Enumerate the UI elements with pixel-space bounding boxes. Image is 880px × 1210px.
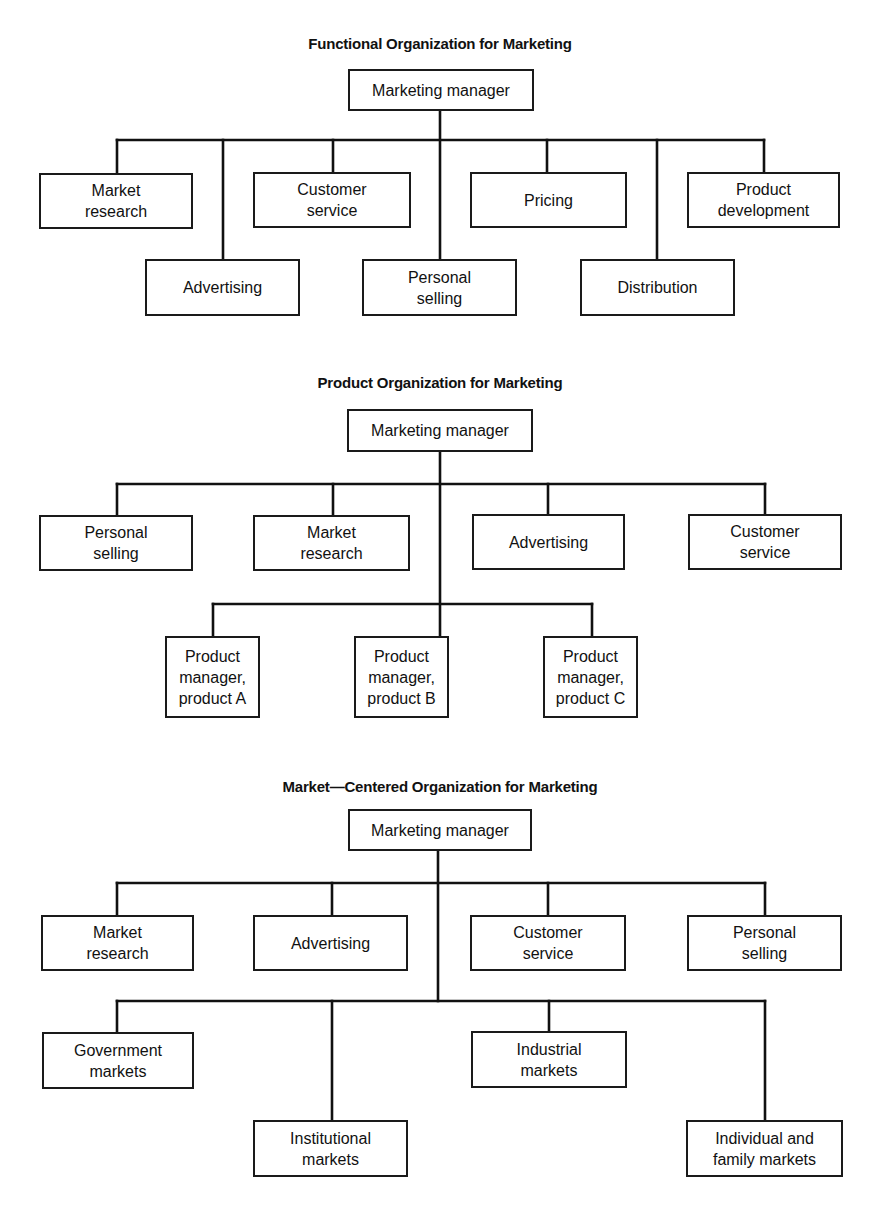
market-centered-org-title: Market—Centered Organization for Marketi… <box>0 778 880 795</box>
functional-distribution-box: Distribution <box>580 259 735 316</box>
market-institutional-markets-box: Institutional markets <box>253 1120 408 1177</box>
functional-market-research-box: Market research <box>39 173 193 229</box>
functional-product-development-box: Product development <box>687 172 840 228</box>
product-marketing-manager-box: Marketing manager <box>347 409 533 452</box>
market-advertising-box: Advertising <box>253 915 408 971</box>
product-market-research-box: Market research <box>253 515 410 571</box>
market-individual-family-markets-box: Individual and family markets <box>686 1120 843 1177</box>
market-marketing-manager-box: Marketing manager <box>348 809 532 851</box>
market-market-research-box: Market research <box>41 915 194 971</box>
market-industrial-markets-box: Industrial markets <box>471 1031 627 1088</box>
market-personal-selling-box: Personal selling <box>687 915 842 971</box>
product-personal-selling-box: Personal selling <box>39 515 193 571</box>
product-org-title: Product Organization for Marketing <box>0 374 880 391</box>
functional-personal-selling-box: Personal selling <box>362 259 517 316</box>
functional-pricing-box: Pricing <box>470 172 627 228</box>
product-manager-b-box: Product manager, product B <box>354 636 449 718</box>
product-customer-service-box: Customer service <box>688 514 842 570</box>
product-advertising-box: Advertising <box>472 514 625 570</box>
market-customer-service-box: Customer service <box>470 915 626 971</box>
functional-marketing-manager-box: Marketing manager <box>348 69 534 111</box>
market-government-markets-box: Government markets <box>42 1032 194 1089</box>
functional-org-title: Functional Organization for Marketing <box>0 35 880 52</box>
functional-customer-service-box: Customer service <box>253 172 411 228</box>
functional-advertising-box: Advertising <box>145 259 300 316</box>
product-manager-a-box: Product manager, product A <box>165 636 260 718</box>
product-manager-c-box: Product manager, product C <box>543 636 638 718</box>
